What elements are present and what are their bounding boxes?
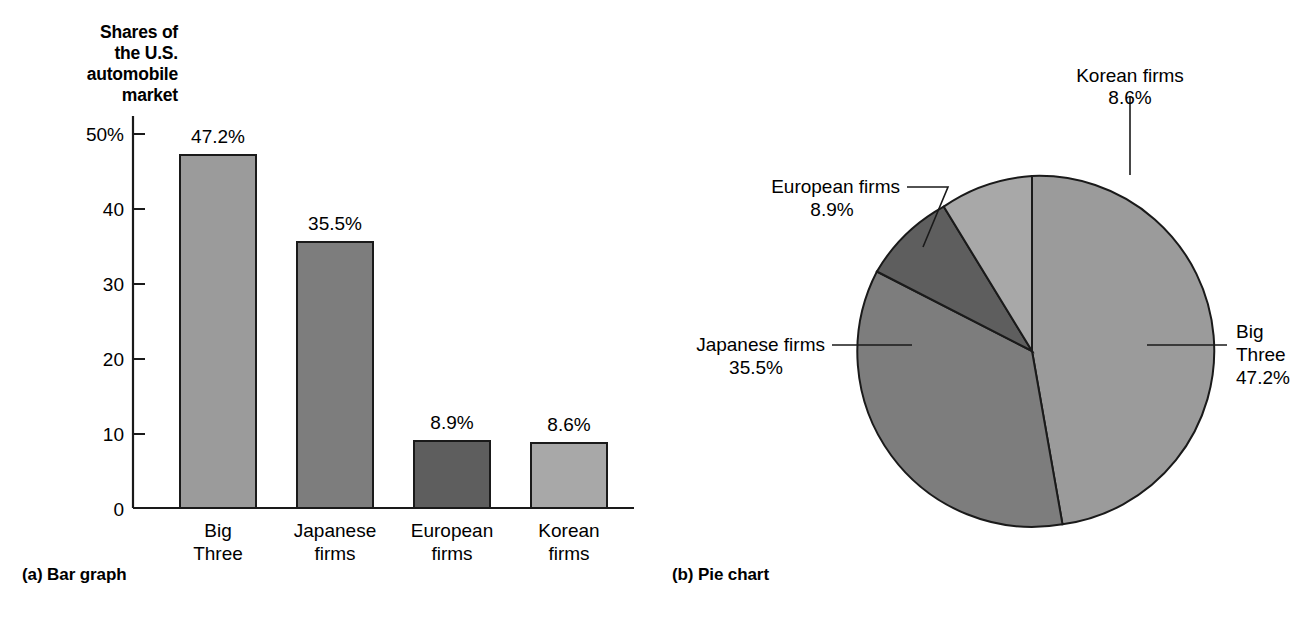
pie-label-big-three-line3: 47.2% [1236,367,1290,388]
bar-category-label-japanese-firms-line1: Japanese [294,520,376,541]
bar-category-label-european-firms-line2: firms [431,543,472,564]
figure-container: Shares of the U.S. automobile market 50%… [0,0,1307,622]
bar-category-label-big-three-line2: Three [193,543,243,564]
pie-label-korean-firms-line1: Korean firms [1076,65,1184,86]
y-tick-label-30: 30 [103,274,124,295]
y-tick-label-0: 0 [113,499,124,520]
bar-japanese-firms [297,242,373,508]
pie-label-european-firms-line1: European firms [771,176,900,197]
pie-chart-panel: Korean firms 8.6% European firms 8.9% Ja… [660,0,1307,622]
bar-value-label-korean-firms: 8.6% [547,414,590,435]
panel-a-caption: (a) Bar graph [22,565,127,585]
panel-b-caption: (b) Pie chart [672,565,769,585]
pie-label-european-firms-line2: 8.9% [810,199,853,220]
pie-label-big-three-line2: Three [1236,344,1286,365]
bar-value-label-japanese-firms: 35.5% [308,213,362,234]
pie-slice-big-three [1032,176,1214,524]
bar-big-three [180,155,256,508]
pie-label-big-three-line1: Big [1236,321,1263,342]
y-tick-label-10: 10 [103,424,124,445]
y-tick-label-40: 40 [103,199,124,220]
pie-label-japanese-firms-line2: 35.5% [729,357,783,378]
bar-category-label-korean-firms-line1: Korean [538,520,599,541]
bar-category-label-big-three-line1: Big [204,520,231,541]
bar-category-label-japanese-firms-line2: firms [314,543,355,564]
bar-graph-panel: Shares of the U.S. automobile market 50%… [0,0,660,622]
bar-korean-firms [531,443,607,508]
y-tick-label-20: 20 [103,349,124,370]
bar-value-label-big-three: 47.2% [191,126,245,147]
bar-chart-svg: 50% 40 30 20 10 0 47.2% 35.5% 8.9% 8.6% … [0,0,660,622]
bar-value-label-european-firms: 8.9% [430,412,473,433]
pie-chart-svg: Korean firms 8.6% European firms 8.9% Ja… [660,0,1307,622]
y-tick-label-50: 50% [86,124,124,145]
pie-label-korean-firms-line2: 8.6% [1108,87,1151,108]
pie-label-japanese-firms-line1: Japanese firms [696,334,825,355]
bar-category-label-korean-firms-line2: firms [548,543,589,564]
bar-category-label-european-firms-line1: European [411,520,493,541]
bar-european-firms [414,441,490,508]
